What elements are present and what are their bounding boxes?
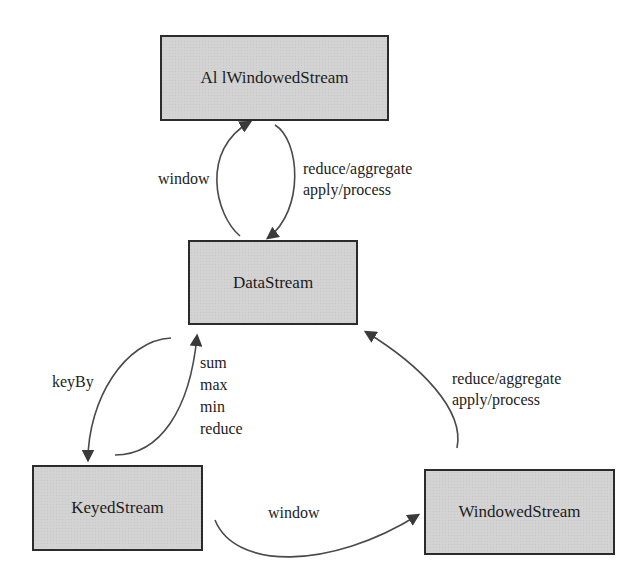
- node-data-stream: DataStream: [188, 240, 358, 325]
- edge-label-window-bottom: window: [268, 502, 320, 523]
- node-label: WindowedStream: [458, 502, 580, 522]
- arrow-window-up: [217, 122, 250, 236]
- arrow-reduce-down: [268, 125, 295, 238]
- arrow-windowed-to-datastream: [366, 332, 458, 448]
- node-keyed-stream: KeyedStream: [32, 465, 203, 551]
- arrow-keyby: [88, 338, 171, 460]
- node-all-windowed-stream: Al lWindowedStream: [160, 35, 389, 121]
- edge-label-keyby: keyBy: [52, 371, 94, 392]
- node-label: Al lWindowedStream: [200, 68, 348, 88]
- node-windowed-stream: WindowedStream: [424, 469, 615, 555]
- edge-label-window-top: window: [158, 168, 210, 189]
- node-label: KeyedStream: [71, 498, 164, 518]
- node-label: DataStream: [233, 273, 313, 293]
- arrow-sum-max: [115, 336, 197, 455]
- edge-label-aggregations: sum max min reduce: [200, 352, 243, 440]
- edge-label-reduce-top: reduce/aggregate apply/process: [303, 158, 412, 200]
- edge-label-reduce-right: reduce/aggregate apply/process: [452, 368, 561, 410]
